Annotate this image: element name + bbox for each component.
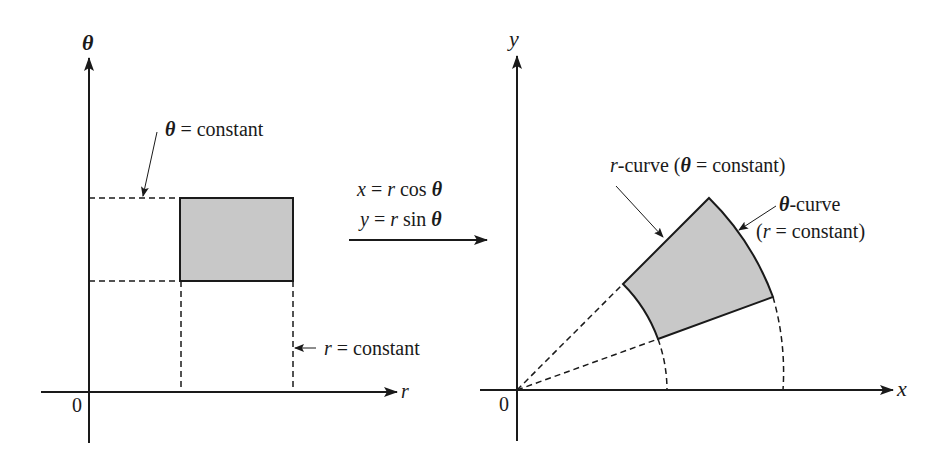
right-panel-xy-plane: y x 0 r-curve (θ = constant) θ-curve (r … bbox=[480, 26, 907, 441]
theta-curve-label: θ-curve bbox=[779, 193, 841, 215]
origin-label-left: 0 bbox=[72, 394, 82, 416]
theta-constant-pointer bbox=[143, 132, 157, 196]
theta-curve-sublabel: (r = constant) bbox=[756, 220, 865, 243]
shaded-polar-region bbox=[623, 198, 773, 339]
dashed-ray-lower bbox=[517, 339, 658, 390]
left-panel-r-theta-plane: θ r 0 θ = constant r = constant bbox=[41, 30, 420, 443]
r-axis-label: r bbox=[401, 380, 409, 402]
transform-equation-y: y = r sin θ bbox=[358, 208, 442, 231]
x-axis-label: x bbox=[896, 376, 907, 401]
transformation-mapping: x = r cos θ y = r sin θ bbox=[349, 178, 487, 240]
polar-coordinate-mapping-diagram: θ r 0 θ = constant r = constant x = r co… bbox=[0, 0, 941, 464]
r-constant-label: r = constant bbox=[324, 337, 420, 359]
theta-axis-label: θ bbox=[82, 30, 94, 55]
shaded-rectangle-region bbox=[180, 198, 293, 281]
transform-equation-x: x = r cos θ bbox=[356, 178, 443, 200]
y-axis-label: y bbox=[507, 26, 519, 51]
theta-constant-label: θ = constant bbox=[165, 118, 264, 140]
r-curve-label: r-curve (θ = constant) bbox=[610, 154, 786, 177]
r-curve-pointer bbox=[616, 186, 663, 237]
dashed-arc-outer bbox=[773, 297, 784, 390]
dashed-ray-upper bbox=[517, 284, 623, 390]
origin-label-right: 0 bbox=[499, 393, 509, 415]
dashed-arc-inner bbox=[658, 339, 667, 390]
